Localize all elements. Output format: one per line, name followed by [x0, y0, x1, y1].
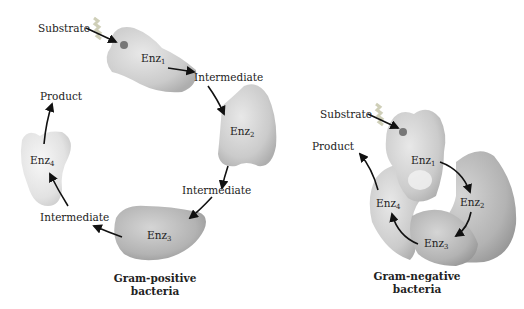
- gp-caption: Gram-positive bacteria: [105, 272, 205, 298]
- gp-enz3-label: Enz3: [147, 230, 171, 243]
- gn-enz4-label: Enz4: [376, 198, 400, 211]
- gn-caption: Gram-negative bacteria: [362, 270, 472, 296]
- gn-substrate-ball: [399, 128, 407, 136]
- arrow-substrate: [86, 28, 116, 42]
- gp-intermediate-label-1: Intermediate: [194, 72, 263, 83]
- gn-product-label: Product: [312, 141, 354, 152]
- gn-caption-line1: Gram-negative: [362, 270, 472, 283]
- substrate-ball: [120, 41, 128, 49]
- arrow-intermediate-enz2: [208, 86, 224, 114]
- gn-enz2-label: Enz2: [460, 197, 484, 210]
- gn-substrate-label: Substrate: [320, 109, 372, 120]
- gp-intermediate-label-2: Intermediate: [182, 185, 251, 196]
- enz4-shape: [21, 132, 71, 207]
- gn-caption-line2: bacteria: [362, 283, 472, 296]
- gp-enz4-label: Enz4: [30, 155, 54, 168]
- gp-caption-line1: Gram-positive: [105, 272, 205, 285]
- gp-substrate-label: Substrate: [38, 23, 90, 34]
- gn-enz3-label: Enz3: [424, 238, 448, 251]
- gp-enz2-label: Enz2: [230, 126, 254, 139]
- diagram-canvas: Substrate Product Intermediate Intermedi…: [0, 0, 524, 309]
- gn-enz1-label: Enz1: [411, 155, 435, 168]
- gn-substrate-chain: [376, 104, 383, 125]
- diagram-graphics: [0, 0, 524, 309]
- gp-intermediate-label-3: Intermediate: [40, 212, 109, 223]
- substrate-chain: [94, 18, 101, 39]
- gp-enz1-label: Enz1: [141, 53, 165, 66]
- gp-caption-line2: bacteria: [105, 285, 205, 298]
- gp-product-label: Product: [40, 91, 82, 102]
